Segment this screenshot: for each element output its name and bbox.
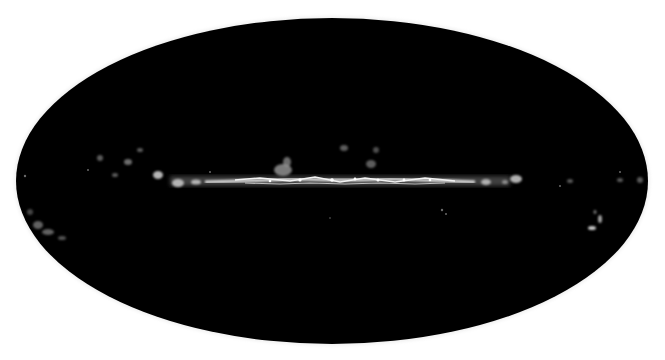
- all-sky-map: [0, 0, 665, 360]
